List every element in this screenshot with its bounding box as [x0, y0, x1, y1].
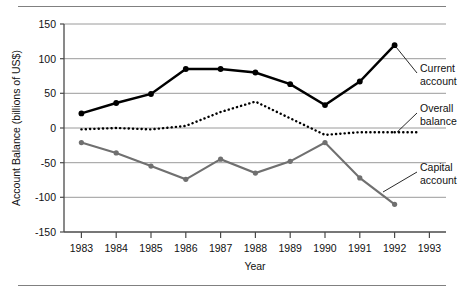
x-tick-label: 1989: [279, 242, 303, 254]
y-tick-labels: 150 100 50 0 -50 -100 -150: [35, 18, 56, 238]
series-current-account: [79, 42, 398, 116]
annotation-leader-lines: [383, 45, 417, 192]
x-tick-label: 1990: [313, 242, 337, 254]
chart-figure: 150 100 50 0 -50 -100 -150 1983 1984 198…: [0, 0, 462, 299]
x-tick-label: 1987: [209, 242, 233, 254]
x-tick-label: 1988: [244, 242, 268, 254]
y-axis-title: Account Balance (billions of US$): [10, 50, 22, 206]
annotation-current-account-line1: Current: [420, 62, 455, 74]
x-axis-title: Year: [244, 260, 266, 272]
x-tick-label: 1992: [383, 242, 407, 254]
y-tick-label: 100: [38, 53, 56, 65]
y-tick-label: 0: [50, 122, 56, 134]
annotation-capital-account-line2: account: [420, 174, 457, 186]
x-tick-label: 1991: [348, 242, 372, 254]
y-tick-label: -100: [35, 191, 56, 203]
y-tick-label: -50: [41, 157, 56, 169]
series-overall-balance: [81, 102, 420, 135]
annotation-overall-balance-line2: balance: [420, 115, 457, 127]
x-tick-label: 1986: [174, 242, 198, 254]
x-tick-label: 1985: [139, 242, 163, 254]
line-chart-svg: 150 100 50 0 -50 -100 -150 1983 1984 198…: [0, 0, 462, 299]
y-tick-label: 50: [44, 87, 56, 99]
x-tick-label: 1983: [70, 242, 94, 254]
x-tick-marks: [81, 232, 429, 238]
annotation-current-account-line2: account: [420, 75, 457, 87]
annotation-labels: Current account Overall balance Capital …: [420, 62, 457, 186]
y-tick-label: -150: [35, 226, 56, 238]
y-tick-label: 150: [38, 18, 56, 30]
x-tick-labels: 1983 1984 1985 1986 1987 1988 1989 1990 …: [70, 242, 442, 254]
x-tick-label: 1984: [105, 242, 129, 254]
annotation-overall-balance-line1: Overall: [420, 102, 453, 114]
x-tick-label: 1993: [418, 242, 442, 254]
annotation-capital-account-line1: Capital: [420, 161, 453, 173]
